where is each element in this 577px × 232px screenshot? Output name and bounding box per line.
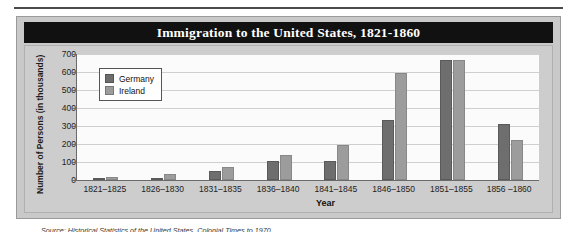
bar-group (498, 54, 523, 180)
page-title: Immigration to the United States, 1821-1… (157, 25, 421, 41)
x-tick-label: 1831–1835 (192, 184, 250, 194)
x-axis-title-wrap: Year (25, 198, 554, 208)
x-tick-label: 1836–1840 (249, 184, 307, 194)
screenshot-page: Immigration to the United States, 1821-1… (0, 0, 577, 232)
chart-legend: Germany Ireland (99, 68, 162, 101)
bar-ireland (395, 73, 407, 180)
source-note: Source: Historical Statistics of the Uni… (41, 226, 271, 232)
bar-group (267, 54, 292, 180)
page-top-rule (14, 7, 563, 9)
bar-germany (498, 124, 510, 180)
y-axis-ticks: 0100200300400500600700 (43, 54, 76, 180)
legend-label-ireland: Ireland (119, 86, 145, 96)
bar-ireland (511, 140, 523, 180)
legend-swatch-ireland-icon (105, 86, 114, 95)
x-tick-label: 1846–1850 (365, 184, 423, 194)
legend-swatch-germany-icon (105, 74, 114, 83)
bar-germany (440, 60, 452, 180)
bar-germany (151, 178, 163, 180)
legend-item-ireland: Ireland (105, 85, 154, 96)
bar-group (440, 54, 465, 180)
bar-group (324, 54, 349, 180)
chart-panel: Number of Persons (in thousands) 0100200… (24, 45, 553, 213)
bar-germany (93, 178, 105, 180)
x-axis-title: Year (316, 198, 335, 208)
x-axis-tick-labels: 1821–18251826–18301831–18351836–18401841… (76, 184, 538, 196)
bar-ireland (453, 60, 465, 180)
bar-ireland (106, 177, 118, 180)
x-tick-label: 1856 –1860 (480, 184, 538, 194)
x-tick-label: 1821–1825 (76, 184, 134, 194)
x-tick-label: 1826–1830 (134, 184, 192, 194)
x-tick-label: 1841–1845 (307, 184, 365, 194)
bar-group (209, 54, 234, 180)
chart-figure: Immigration to the United States, 1821-1… (16, 16, 561, 219)
bar-ireland (164, 174, 176, 180)
bar-germany (382, 120, 394, 180)
chart-title-banner: Immigration to the United States, 1821-1… (24, 22, 553, 43)
bar-ireland (337, 145, 349, 180)
bar-ireland (222, 167, 234, 181)
plot-area: Germany Ireland (76, 54, 539, 181)
bar-ireland (280, 155, 292, 180)
legend-label-germany: Germany (119, 74, 154, 84)
bar-germany (324, 161, 336, 180)
bar-germany (267, 161, 279, 180)
bar-group (382, 54, 407, 180)
x-tick-label: 1851–1855 (423, 184, 481, 194)
legend-item-germany: Germany (105, 73, 154, 84)
bar-germany (209, 171, 221, 180)
